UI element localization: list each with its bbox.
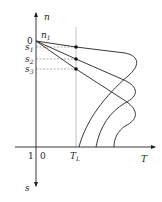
dot-s1: [74, 45, 78, 49]
s-axis-label: s: [25, 183, 30, 193]
diagram-canvas: n s T 0 1 0 n1 s1 s2 s3 TL: [0, 0, 162, 202]
n1-label: n1: [41, 30, 51, 41]
dot-s2: [74, 57, 78, 61]
n-axis-label: n: [44, 12, 50, 22]
origin-left-label: 1: [28, 151, 34, 161]
s3-label: s3: [25, 64, 34, 75]
dot-s3: [74, 67, 78, 71]
curve-s1: [36, 41, 137, 147]
curve-s3: [36, 41, 135, 147]
t-axis-label: T: [141, 154, 148, 164]
tl-label: TL: [70, 151, 80, 162]
curve-s2: [36, 41, 135, 147]
origin-right-label: 0: [40, 151, 46, 161]
